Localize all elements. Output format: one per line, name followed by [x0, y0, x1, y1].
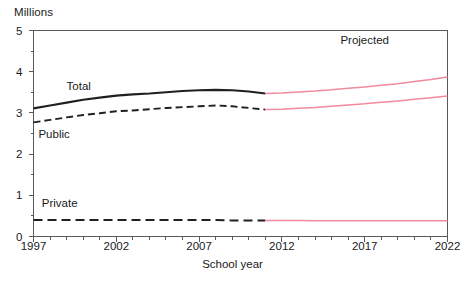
x-axis-title: School year [0, 258, 465, 270]
axis-ticks [29, 31, 448, 242]
y-tick-label: 0 [1, 231, 23, 243]
x-tick-label: 2012 [269, 240, 295, 252]
data-series-lines [34, 77, 448, 221]
y-tick-label: 2 [1, 148, 23, 160]
x-tick-label: 2017 [352, 240, 378, 252]
series-line-public-actual [34, 105, 266, 122]
y-tick-label: 1 [1, 189, 23, 201]
y-tick-label: 4 [1, 66, 23, 78]
y-tick-label: 5 [1, 25, 23, 37]
series-line-total-actual [34, 90, 266, 109]
x-tick-label: 2002 [104, 240, 130, 252]
annotation-projected: Projected [340, 34, 389, 46]
chart-container: Millions 012345 199720022007201220172022… [0, 0, 465, 282]
series-line-public-projected [265, 96, 447, 110]
x-tick-label: 1997 [21, 240, 47, 252]
y-tick-label: 3 [1, 107, 23, 119]
x-tick-label: 2022 [435, 240, 461, 252]
series-label-total: Total [67, 80, 91, 92]
x-tick-label: 2007 [186, 240, 212, 252]
plot-canvas [0, 0, 465, 282]
series-label-public: Public [38, 128, 69, 140]
plot-frame [34, 31, 448, 237]
series-label-private: Private [42, 197, 78, 209]
series-line-total-projected [265, 77, 447, 93]
